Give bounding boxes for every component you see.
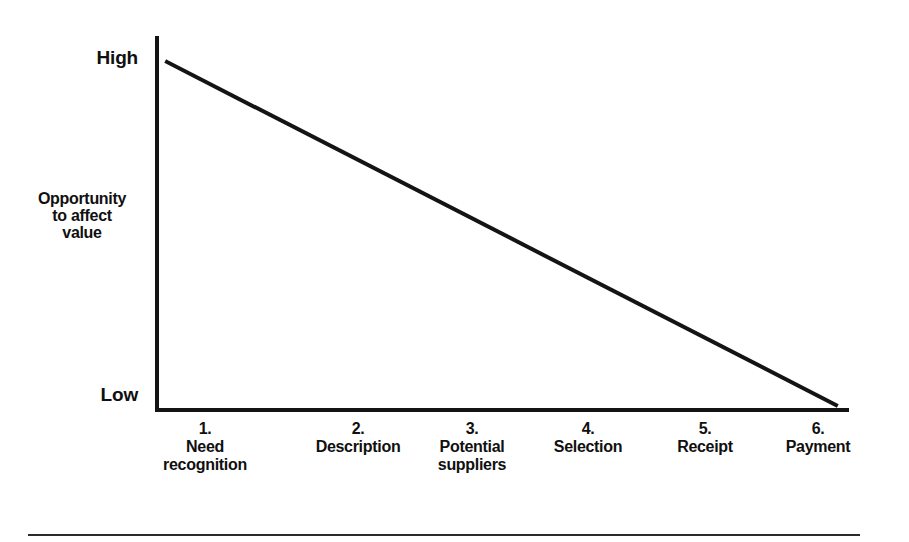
y-axis-tick-high: High (18, 47, 138, 69)
x-axis-category-1-number: 1. (130, 420, 280, 438)
x-axis-category-6: 6. Payment (743, 420, 893, 456)
x-axis-category-6-line-1: Payment (743, 438, 893, 456)
y-axis-title-line-1: Opportunity (18, 190, 146, 207)
x-axis-line (155, 408, 849, 412)
x-axis-category-1: 1. Need recognition (130, 420, 280, 474)
chart-page: High Low Opportunity to affect value 1. … (0, 0, 909, 542)
y-axis-title-line-2: to affect (18, 207, 146, 224)
y-axis-line (155, 36, 159, 412)
x-axis-category-1-line-1: Need (130, 438, 280, 456)
bottom-separator-rule (28, 534, 860, 536)
x-axis-category-3-line-2: suppliers (397, 456, 547, 474)
y-axis-tick-low: Low (18, 384, 138, 406)
x-axis-category-1-line-2: recognition (130, 456, 280, 474)
y-axis-title-line-3: value (18, 224, 146, 241)
data-line-series-1 (167, 62, 836, 405)
x-axis-category-6-number: 6. (743, 420, 893, 438)
y-axis-title: Opportunity to affect value (18, 190, 146, 241)
